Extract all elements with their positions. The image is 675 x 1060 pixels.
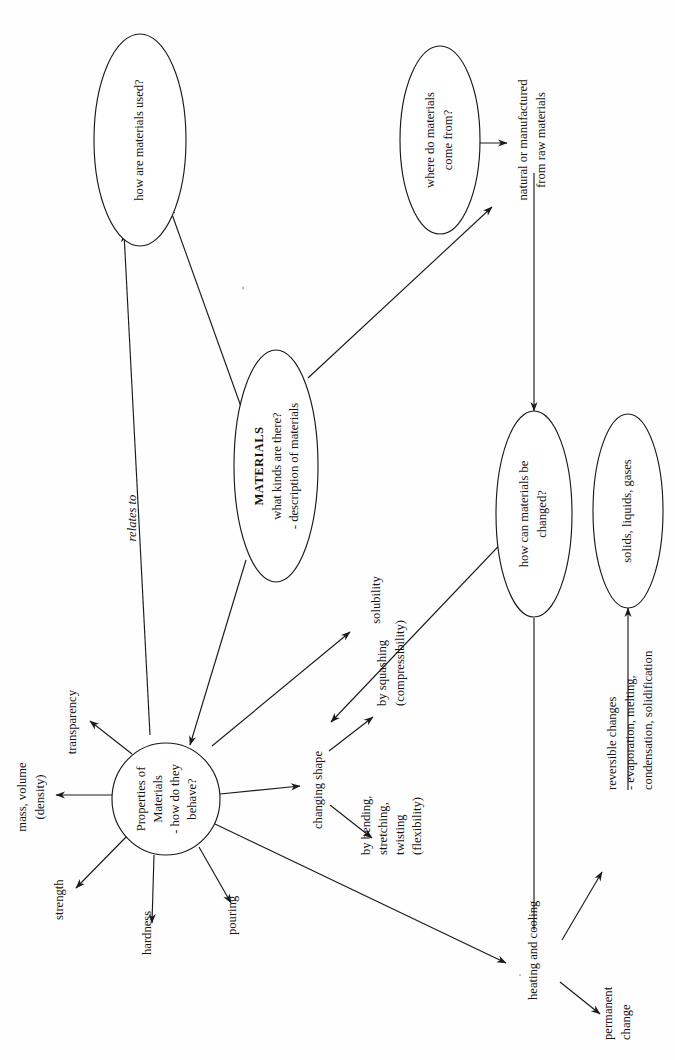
- label-bending-line3: twisting: [393, 814, 407, 855]
- label-squashing-line2: (compressibility): [393, 620, 407, 706]
- label-bending-line2: stretching,: [376, 802, 390, 855]
- node-materials-title: MATERIALS: [252, 427, 266, 506]
- concept-map-page: how are materials used? where do materia…: [0, 0, 675, 1060]
- label-mass-volume-line2: (density): [33, 775, 47, 820]
- label-reversible-line1: reversible changes: [605, 697, 619, 790]
- node-changed-line2: changed?: [535, 490, 549, 538]
- label-permanent-line1: permanent: [601, 986, 615, 1040]
- label-transparency: transparency: [65, 689, 79, 754]
- label-bending-line1: by bending,: [359, 796, 373, 855]
- label-changing-shape: changing shape: [311, 751, 325, 829]
- label-strength: strength: [52, 879, 66, 920]
- label-squashing-line1: by squashing: [375, 639, 389, 706]
- node-properties-line2: Materials: [151, 775, 165, 823]
- label-bending-line4: (flexibility): [410, 797, 424, 855]
- edge-heating-to-reversible: [562, 872, 602, 940]
- scan-speck: [519, 974, 521, 976]
- label-solubility: solubility: [369, 576, 383, 624]
- edge-properties-to-used: [124, 233, 150, 735]
- node-states-label: solids, liquids, gases: [620, 459, 634, 563]
- node-properties-of-materials[interactable]: [112, 743, 220, 855]
- label-hardness: hardness: [140, 911, 154, 955]
- node-materials-line3: - description of materials: [287, 403, 301, 529]
- edge-properties-to-solubility: [212, 632, 350, 746]
- node-materials-line2: what kinds are there?: [270, 412, 284, 520]
- edge-properties-to-changing-shape: [220, 786, 300, 794]
- edge-properties-to-pouring: [199, 847, 231, 903]
- concept-map-canvas: how are materials used? where do materia…: [0, 0, 675, 1060]
- node-used-label: how are materials used?: [132, 79, 146, 201]
- node-properties-line4: behave?: [185, 778, 199, 820]
- edge-changed-to-changing-shape: [331, 533, 511, 722]
- edge-properties-to-transparency: [90, 721, 132, 754]
- node-origin-line2: come from?: [441, 109, 455, 170]
- edge-materials-to-origin: [308, 207, 492, 378]
- label-raw-line1: natural or manufactured: [516, 79, 530, 201]
- label-relates-to: relates to: [125, 495, 139, 542]
- node-origin-line1: where do materials: [423, 92, 437, 188]
- label-reversible-line2: - evaporation, melting,: [623, 675, 637, 790]
- edge-heating-to-permanent: [560, 982, 600, 1014]
- edge-materials-to-properties: [190, 560, 246, 745]
- label-reversible-line3: condensation, solidification: [641, 650, 655, 790]
- scan-speck: [242, 287, 244, 289]
- edge-properties-to-strength: [76, 835, 128, 888]
- node-changed-line1: how can materials be: [517, 460, 531, 567]
- label-pouring: pouring: [225, 895, 239, 935]
- label-mass-volume-line1: mass, volume: [15, 762, 29, 832]
- edge-changing-shape-to-squashing: [329, 717, 373, 751]
- label-permanent-line2: change: [619, 1004, 633, 1040]
- node-properties-line3: - how do they: [168, 763, 182, 833]
- node-properties-line1: Properties of: [134, 766, 148, 832]
- label-heating-and-cooling: heating and cooling: [526, 900, 540, 1000]
- label-raw-line2: from raw materials: [534, 92, 548, 188]
